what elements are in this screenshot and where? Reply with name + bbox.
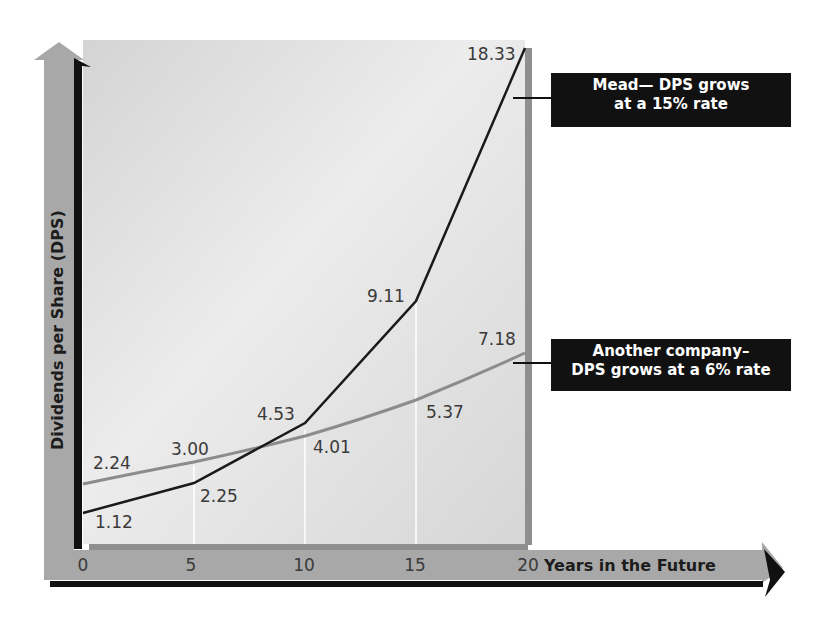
other-label-20: 7.18: [478, 329, 516, 349]
mead-label-0: 1.12: [95, 512, 133, 532]
mead-callout: Mead— DPS grows at a 15% rate: [551, 73, 791, 127]
other-label-10: 4.01: [313, 437, 351, 457]
mead-callout-line2: at a 15% rate: [559, 95, 783, 114]
x-tick-5: 5: [186, 555, 197, 575]
x-axis-title: Years in the Future: [543, 556, 716, 575]
mead-label-15: 9.11: [367, 286, 405, 306]
mead-label-5: 2.25: [200, 486, 238, 506]
plot-right-border: [525, 48, 532, 545]
mead-callout-line1: Mead— DPS grows: [559, 76, 783, 95]
other-label-15: 5.37: [426, 402, 464, 422]
x-tick-15: 15: [404, 555, 426, 575]
other-label-0: 2.24: [93, 453, 131, 473]
other-label-5: 3.00: [171, 439, 209, 459]
other-callout-line1: Another company–: [559, 342, 783, 361]
mead-label-20: 18.33: [467, 44, 516, 64]
mead-label-10: 4.53: [257, 404, 295, 424]
other-callout: Another company– DPS grows at a 6% rate: [551, 339, 791, 391]
x-tick-0: 0: [78, 555, 89, 575]
y-axis-title: Dividends per Share (DPS): [48, 210, 67, 450]
other-callout-line2: DPS grows at a 6% rate: [559, 361, 783, 380]
x-tick-20: 20: [517, 555, 539, 575]
x-tick-10: 10: [293, 555, 315, 575]
